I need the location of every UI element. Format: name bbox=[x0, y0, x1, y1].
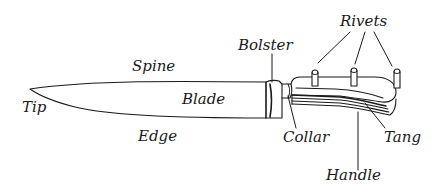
bolster bbox=[266, 80, 282, 118]
label-blade: Blade bbox=[182, 92, 225, 107]
label-bolster: Bolster bbox=[238, 38, 293, 53]
label-edge: Edge bbox=[138, 129, 177, 144]
label-collar: Collar bbox=[283, 130, 329, 145]
label-spine: Spine bbox=[132, 59, 175, 74]
label-rivets: Rivets bbox=[340, 14, 387, 29]
rivets bbox=[312, 68, 400, 88]
label-tip: Tip bbox=[22, 100, 46, 115]
blade-outline bbox=[30, 81, 266, 118]
label-tang: Tang bbox=[384, 130, 421, 145]
label-handle: Handle bbox=[326, 168, 381, 183]
knife-diagram: Tip Spine Blade Edge Bolster Collar Rive… bbox=[0, 0, 442, 189]
collar bbox=[282, 84, 292, 98]
